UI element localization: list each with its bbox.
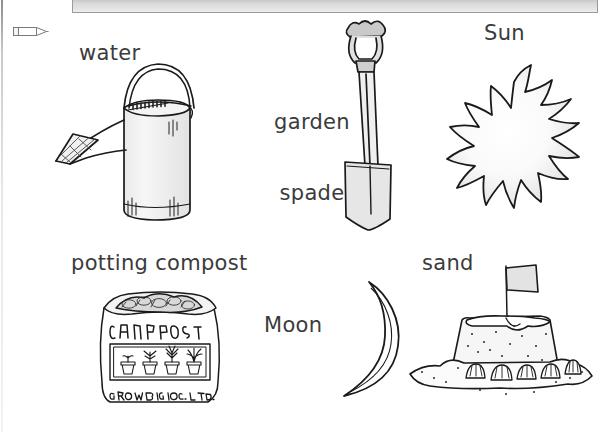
worksheet-page: water garden spade Sun potting compost M… [0,0,606,432]
label-garden-spade-line1: garden [266,111,358,135]
illustration-sun [430,62,598,230]
illustration-compost-bag [88,282,233,410]
pencil-icon[interactable] [13,25,49,39]
label-sun: Sun [484,22,525,46]
illustration-crescent-moon [340,278,410,400]
label-water: water [79,42,140,66]
illustration-sandcastle [410,256,592,408]
label-garden-spade: garden spade [266,64,358,252]
label-garden-spade-line2: spade [266,182,358,206]
page-left-edge [1,0,3,432]
toolbar[interactable] [72,0,598,13]
label-potting-compost: potting compost [71,252,248,276]
label-moon: Moon [264,314,322,338]
label-sand: sand [422,252,474,276]
illustration-watering-can [48,58,248,233]
